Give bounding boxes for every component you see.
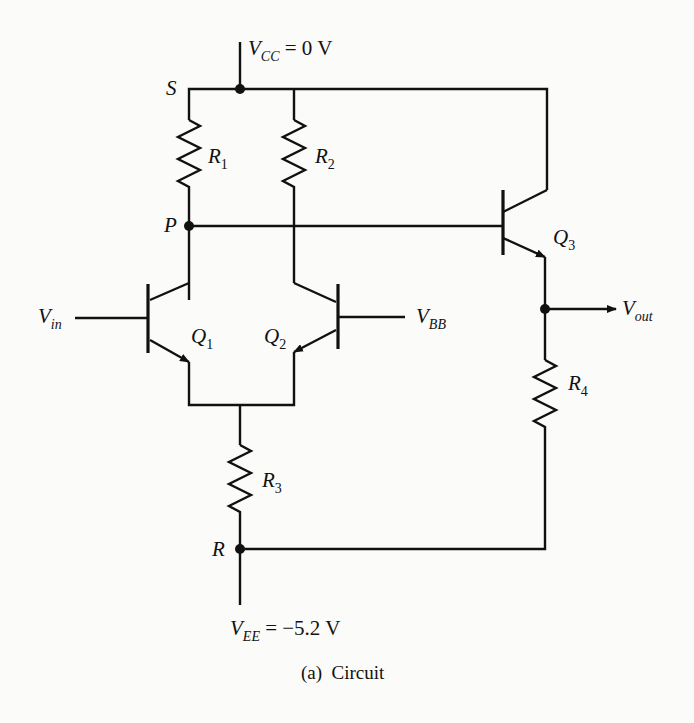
- r-junction-dot: [235, 544, 245, 554]
- q1-collector: [150, 283, 189, 300]
- vout-subscript: out: [635, 309, 653, 324]
- r3-resistor: [229, 445, 251, 605]
- circuit-figure: VCC = 0 V S P R R1 R2 R3 R4 Q1 Q2 Q3 Vin…: [0, 0, 694, 723]
- emitter-tail-wire: [189, 352, 294, 405]
- r2-resistor: [283, 120, 305, 283]
- r3-subscript: 3: [275, 481, 282, 496]
- r4-label: R4: [568, 373, 588, 394]
- r1-label: R1: [208, 146, 228, 167]
- q1-symbol: Q: [191, 324, 206, 348]
- r4-resistor: [240, 360, 556, 549]
- q2-collector: [294, 283, 336, 302]
- vcc-subscript: CC: [261, 49, 280, 64]
- vout-junction-dot: [540, 304, 550, 314]
- q2-emitter: [294, 330, 336, 352]
- r1-symbol: R: [208, 144, 221, 168]
- node-s-label: S: [166, 78, 177, 99]
- r1-resistor: [178, 120, 200, 300]
- vcc-junction-dot: [235, 84, 245, 94]
- q2-label: Q2: [264, 326, 286, 347]
- r3-symbol: R: [262, 468, 275, 492]
- q2-symbol: Q: [264, 324, 279, 348]
- vbb-label: VBB: [416, 306, 446, 327]
- vcc-value: = 0 V: [285, 36, 333, 60]
- q2-subscript: 2: [279, 337, 286, 352]
- r3-label: R3: [262, 470, 282, 491]
- q1-emitter: [150, 340, 189, 362]
- vee-subscript: EE: [243, 629, 260, 644]
- r4-subscript: 4: [581, 384, 588, 399]
- q3-symbol: Q: [553, 225, 568, 249]
- r2-subscript: 2: [328, 157, 335, 172]
- p-junction-dot: [184, 221, 194, 231]
- q3-subscript: 3: [568, 238, 575, 253]
- circuit-schematic: [0, 0, 694, 723]
- vee-label: VEE = −5.2 V: [230, 618, 340, 639]
- q1-label: Q1: [191, 326, 213, 347]
- r2-label: R2: [315, 146, 335, 167]
- vbb-symbol: V: [416, 304, 429, 328]
- r1-subscript: 1: [221, 157, 228, 172]
- q1-subscript: 1: [206, 337, 213, 352]
- q3-label: Q3: [553, 227, 575, 248]
- node-r-label: R: [212, 539, 225, 560]
- s-rail: [189, 89, 547, 190]
- vout-label: Vout: [622, 298, 653, 319]
- q3-emitter: [503, 238, 545, 257]
- r4-symbol: R: [568, 371, 581, 395]
- vin-subscript: in: [51, 317, 62, 332]
- node-p-label: P: [164, 215, 177, 236]
- q3-collector: [503, 190, 547, 212]
- vcc-symbol: V: [248, 36, 261, 60]
- figure-caption: (a) Circuit: [301, 663, 384, 682]
- r2-symbol: R: [315, 144, 328, 168]
- vout-symbol: V: [622, 296, 635, 320]
- vee-symbol: V: [230, 616, 243, 640]
- vbb-subscript: BB: [429, 317, 446, 332]
- vin-label: Vin: [38, 306, 62, 327]
- vin-symbol: V: [38, 304, 51, 328]
- vcc-label: VCC = 0 V: [248, 38, 332, 59]
- vee-value: = −5.2 V: [265, 616, 340, 640]
